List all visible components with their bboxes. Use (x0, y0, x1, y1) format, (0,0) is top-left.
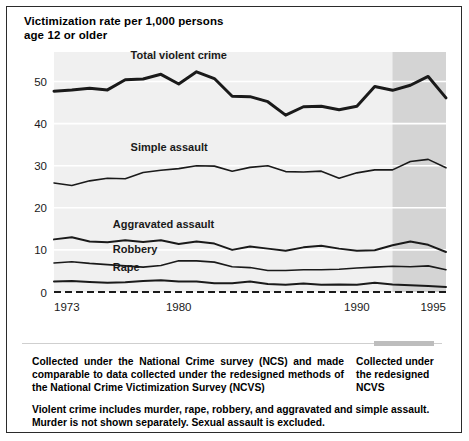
x-tick-label-1995: 1995 (420, 301, 446, 313)
chart-title-line-1: Victimization rate per 1,000 persons (24, 14, 324, 28)
footer-note-ncvs-line-3: NCVS (356, 381, 452, 394)
line-chart-plot: 010203040501973198019901995Total violent… (14, 48, 454, 328)
footer-note-ncs: Collected under the National Crime surve… (32, 355, 344, 395)
series-label-total-violent-crime: Total violent crime (131, 49, 227, 61)
redesigned-ncvs-swatch (374, 341, 434, 346)
footer-note-ncvs: Collected under the redesigned NCVS (356, 355, 452, 395)
footer-note-ncvs-line-1: Collected under (356, 355, 452, 368)
chart-figure: Victimization rate per 1,000 persons age… (0, 0, 469, 441)
series-label-rape: Rape (113, 261, 140, 273)
x-tick-label-1990: 1990 (344, 301, 370, 313)
chart-title-line-2: age 12 or older (24, 28, 324, 42)
y-tick-label-40: 40 (34, 118, 47, 130)
y-tick-label-50: 50 (34, 76, 47, 88)
y-tick-label-0: 0 (41, 287, 47, 299)
series-label-simple-assault: Simple assault (131, 141, 208, 153)
series-label-robbery: Robbery (113, 243, 159, 255)
series-label-aggravated-assault: Aggravated assault (113, 218, 215, 230)
y-tick-label-10: 10 (34, 244, 47, 256)
y-tick-label-20: 20 (34, 202, 47, 214)
footer-note-definition-line-1: Violent crime includes murder, rape, rob… (32, 403, 442, 416)
footer-note-definition-line-2: Murder is not shown separately. Sexual a… (32, 416, 442, 429)
x-tick-label-1973: 1973 (54, 301, 80, 313)
footer-note-definition: Violent crime includes murder, rape, rob… (32, 403, 442, 429)
y-tick-label-30: 30 (34, 160, 47, 172)
chart-title: Victimization rate per 1,000 persons age… (24, 14, 324, 42)
x-tick-label-1980: 1980 (166, 301, 192, 313)
footer-note-ncvs-line-2: the redesigned (356, 368, 452, 381)
